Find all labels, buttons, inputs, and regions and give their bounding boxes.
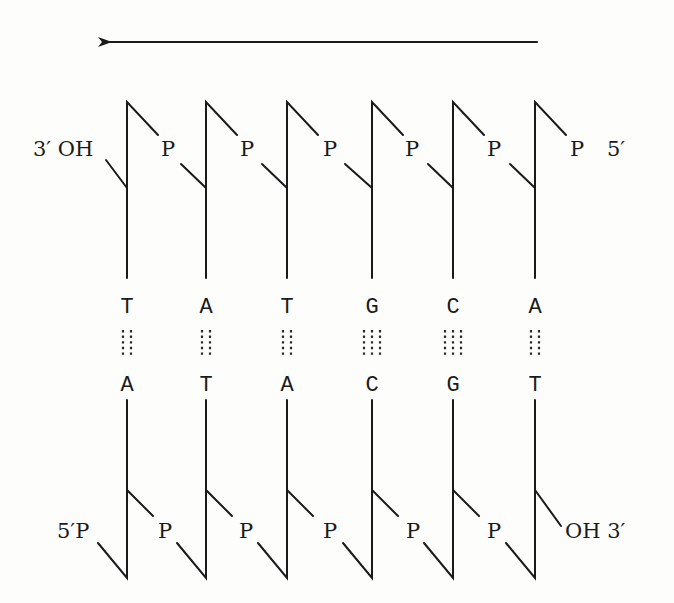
hydrogen-bond-2 bbox=[202, 330, 210, 358]
bottom-base: A bbox=[120, 373, 134, 398]
top-nucleotide-2 bbox=[181, 102, 237, 278]
top-base: T bbox=[280, 295, 293, 320]
hydrogen-bond-3 bbox=[445, 330, 461, 358]
top-3prime-oh-label: 3′ OH bbox=[33, 137, 93, 161]
top-base: C bbox=[446, 295, 459, 320]
bottom-phosphate-label: P bbox=[406, 519, 420, 543]
top-phosphate-label: P bbox=[323, 137, 337, 161]
bottom-base: T bbox=[199, 373, 212, 398]
top-phosphate-label: P bbox=[240, 137, 254, 161]
bottom-phosphate-label: P bbox=[323, 519, 337, 543]
bottom-base: T bbox=[528, 373, 541, 398]
top-phosphate-label: P bbox=[405, 137, 419, 161]
bottom-5prime-p-label: 5′P bbox=[57, 519, 89, 543]
bottom-base: G bbox=[446, 373, 459, 398]
top-nucleotide-1 bbox=[106, 102, 158, 278]
top-base: A bbox=[199, 295, 213, 320]
bottom-nucleotide-6 bbox=[506, 400, 561, 578]
bottom-phosphate-label: P bbox=[487, 519, 501, 543]
bottom-phosphate-label: P bbox=[239, 519, 253, 543]
top-phosphate-label: P bbox=[161, 137, 175, 161]
top-5prime-label: 5′ bbox=[607, 137, 625, 161]
bottom-nucleotide-5 bbox=[424, 400, 479, 578]
bottom-nucleotide-1 bbox=[98, 400, 153, 578]
base-pairs: T A T G C A A T A C G T bbox=[120, 295, 542, 398]
hydrogen-bond-2 bbox=[531, 330, 539, 358]
top-base: T bbox=[120, 295, 133, 320]
bottom-nucleotide-2 bbox=[177, 400, 232, 578]
top-base: A bbox=[528, 295, 542, 320]
top-phosphate-label: P bbox=[487, 137, 501, 161]
bottom-phosphate-label: P bbox=[158, 519, 172, 543]
top-base: G bbox=[365, 295, 378, 320]
dna-double-strand-diagram: 3′ OH P P P P P P 5′ T A T G C A bbox=[0, 0, 674, 603]
top-nucleotide-4 bbox=[345, 102, 403, 278]
top-phosphate-label: P bbox=[570, 137, 584, 161]
bottom-nucleotide-4 bbox=[343, 400, 398, 578]
bottom-nucleotide-3 bbox=[258, 400, 313, 578]
bottom-base: C bbox=[365, 373, 378, 398]
bottom-3prime-oh-label: OH 3′ bbox=[565, 519, 626, 543]
top-nucleotide-5 bbox=[428, 102, 484, 278]
hydrogen-bond-2 bbox=[123, 330, 131, 358]
top-strand: 3′ OH P P P P P P 5′ bbox=[33, 102, 625, 278]
hydrogen-bond-2 bbox=[283, 330, 291, 358]
bottom-strand: 5′P P P P P P OH 3′ bbox=[57, 400, 626, 578]
top-nucleotide-3 bbox=[262, 102, 318, 278]
hydrogen-bond-3 bbox=[364, 330, 380, 358]
bottom-base: A bbox=[280, 373, 294, 398]
top-nucleotide-6 bbox=[510, 102, 566, 278]
